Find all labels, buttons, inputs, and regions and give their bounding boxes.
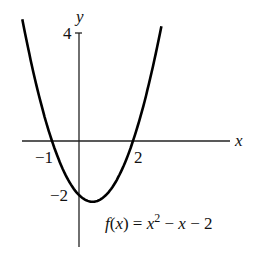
y-tick-label-4: 4: [63, 24, 72, 43]
function-graph: 4 y x −1 2 −2 f(x) = x2 − x − 2: [0, 0, 260, 255]
x-tick-label-neg1: −1: [35, 148, 53, 167]
x-tick-label-2: 2: [134, 148, 143, 167]
y-axis-label: y: [74, 7, 84, 26]
x-axis-label: x: [234, 131, 243, 150]
function-equation: f(x) = x2 − x − 2: [105, 211, 212, 233]
parabola-curve: [22, 19, 161, 202]
y-tick-label-neg2: −2: [50, 186, 68, 205]
